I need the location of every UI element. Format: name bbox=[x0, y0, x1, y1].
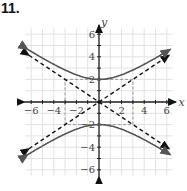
x-tick-label: 4 bbox=[141, 105, 147, 116]
x-tick-label: −2 bbox=[69, 105, 84, 116]
hyperbola-graph: −6−4−2246642−2−4−6xy bbox=[0, 0, 187, 191]
x-tick-label: 2 bbox=[118, 105, 124, 116]
y-tick-label: −4 bbox=[80, 142, 95, 153]
x-tick-label: 6 bbox=[164, 105, 170, 116]
y-axis-label: y bbox=[100, 16, 108, 29]
x-axis-label: x bbox=[178, 96, 185, 109]
vertex-point bbox=[97, 78, 101, 82]
x-tick-label: −4 bbox=[46, 105, 61, 116]
y-tick-label: 4 bbox=[89, 51, 95, 62]
y-tick-label: 6 bbox=[89, 29, 95, 40]
vertex-point bbox=[97, 123, 101, 127]
y-tick-label: −6 bbox=[80, 164, 95, 175]
origin-point bbox=[97, 100, 101, 104]
x-tick-label: −6 bbox=[24, 105, 39, 116]
